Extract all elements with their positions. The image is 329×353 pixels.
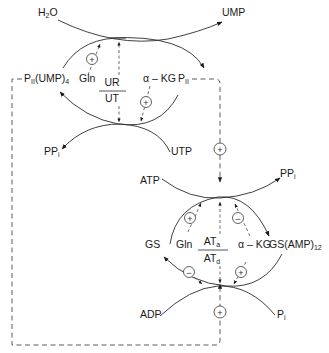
label-utp: UTP <box>171 145 192 157</box>
akg-lower-minus-sign: − <box>235 214 240 224</box>
label-adp: ADP <box>140 308 162 320</box>
label-akg-upper: α – KG <box>143 72 176 84</box>
label-gln-upper: Gln <box>79 72 96 84</box>
gln-lower-minus-sign: − <box>186 268 191 278</box>
label-ppi-upper: PPi <box>44 145 60 158</box>
pii-link-dashed <box>192 79 220 182</box>
lower-arc-to-gs <box>164 254 282 286</box>
link-plus-sign: + <box>217 145 222 155</box>
label-gs: GS <box>145 238 160 250</box>
akg-lower-plus-sign: + <box>238 268 243 278</box>
upper-cycle: UR UT + + H2O UMP PII(UMP)4 Gln α – KG P… <box>24 6 245 158</box>
regulatory-cascade-diagram: UR UT + + H2O UMP PII(UMP)4 Gln α – KG P… <box>0 0 329 353</box>
piiump4-link-dashed <box>12 79 220 345</box>
atp-to-ppi-arrow <box>162 178 280 198</box>
upper-arc-to-pii <box>110 38 204 68</box>
bottom-link-plus-sign: + <box>217 308 222 318</box>
label-atp: ATP <box>140 174 160 186</box>
lower-cycle: ATa ATd + − − + ATP PPi GS Gln α – KG GS… <box>140 167 322 321</box>
lower-enzyme-atd: ATd <box>204 252 221 265</box>
label-ppi-lower: PPi <box>280 167 296 180</box>
akg-upper-plus-sign: + <box>143 98 148 108</box>
label-ump: UMP <box>222 6 245 18</box>
label-pii-ump4: PII(UMP)4 <box>24 72 69 85</box>
label-akg-lower: α – KG <box>238 238 271 250</box>
upper-enzyme-ut: UT <box>105 92 120 104</box>
utp-to-ppi-arrow <box>62 124 170 152</box>
gln-lower-plus-sign: + <box>187 214 192 224</box>
gln-upper-plus-sign: + <box>89 55 94 65</box>
label-pii: PII <box>178 72 189 85</box>
label-pi: Pi <box>277 308 286 321</box>
label-h2o: H2O <box>38 6 58 19</box>
label-gs-amp12: GS(AMP)12 <box>269 238 322 251</box>
label-gln-lower: Gln <box>176 238 193 250</box>
lower-enzyme-ata: ATa <box>204 235 221 248</box>
upper-enzyme-ur: UR <box>104 76 120 88</box>
